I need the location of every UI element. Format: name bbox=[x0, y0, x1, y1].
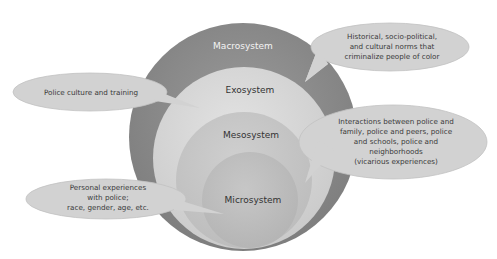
callout-microsystem-line-3: race, gender, age, etc. bbox=[67, 203, 149, 212]
callout-microsystem-line-2: with police; bbox=[87, 193, 128, 202]
callout-microsystem-line-1: Personal experiences bbox=[70, 183, 147, 192]
exosystem-label: Exosystem bbox=[226, 85, 275, 95]
callout-exosystem-line-1: Police culture and training bbox=[44, 88, 138, 97]
microsystem-label: Microsystem bbox=[225, 195, 282, 205]
callout-mesosystem-line-1: Interactions between police and bbox=[338, 117, 454, 126]
callout-mesosystem-line-2: family, police and peers, police bbox=[340, 127, 453, 136]
callout-mesosystem-line-3: and schools, police and bbox=[354, 137, 438, 146]
callout-macrosystem-line-1: Historical, socio-political, bbox=[347, 32, 437, 41]
macrosystem-label: Macrosystem bbox=[213, 41, 273, 51]
ecological-systems-diagram: Macrosystem Exosystem Mesosystem Microsy… bbox=[0, 0, 497, 259]
callout-macrosystem-line-3: criminalize people of color bbox=[345, 52, 440, 61]
callout-mesosystem-line-5: (vicarious experiences) bbox=[354, 157, 438, 166]
callout-macrosystem-line-2: and cultural norms that bbox=[350, 42, 435, 51]
callout-mesosystem-line-4: neighborhoods bbox=[369, 147, 423, 156]
mesosystem-label: Mesosystem bbox=[223, 130, 279, 140]
